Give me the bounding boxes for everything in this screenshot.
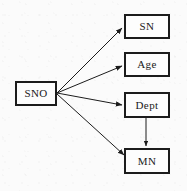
- node-age[interactable]: Age: [124, 52, 170, 77]
- node-sno-label: SNO: [24, 88, 47, 99]
- diagram-canvas: SNO SN Age Dept MN: [0, 0, 187, 191]
- node-sno[interactable]: SNO: [15, 81, 57, 106]
- node-sn[interactable]: SN: [124, 14, 170, 39]
- edge-sno-to-age: [57, 66, 122, 93]
- node-dept[interactable]: Dept: [124, 92, 170, 118]
- node-mn-label: MN: [138, 156, 157, 167]
- node-dept-label: Dept: [136, 100, 159, 111]
- node-sn-label: SN: [140, 21, 155, 32]
- edge-sno-to-sn: [57, 28, 122, 93]
- node-mn[interactable]: MN: [124, 148, 170, 174]
- node-age-label: Age: [137, 59, 157, 70]
